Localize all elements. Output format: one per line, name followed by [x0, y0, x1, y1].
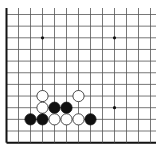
white-stone[interactable]	[61, 114, 72, 125]
star-point-icon	[113, 36, 116, 39]
white-stone[interactable]	[37, 90, 48, 101]
star-point-icon	[113, 106, 116, 109]
go-board[interactable]	[0, 0, 163, 154]
star-point-icon	[41, 36, 44, 39]
black-stone[interactable]	[37, 114, 48, 125]
white-stone[interactable]	[49, 114, 60, 125]
black-stone[interactable]	[61, 102, 72, 113]
black-stone[interactable]	[49, 102, 60, 113]
white-stone[interactable]	[73, 90, 84, 101]
white-stone[interactable]	[73, 114, 84, 125]
white-stone[interactable]	[37, 102, 48, 113]
black-stone[interactable]	[25, 114, 36, 125]
black-stone[interactable]	[85, 114, 96, 125]
